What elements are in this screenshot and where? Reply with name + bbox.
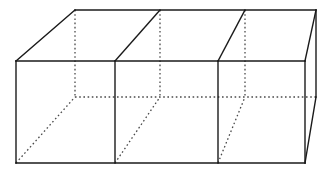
figure-canvas: Partitioned rectangular prism Oblique pr… <box>0 0 332 173</box>
rectangular-prism-diagram: Partitioned rectangular prism Oblique pr… <box>0 0 332 173</box>
figure-background <box>0 0 332 173</box>
